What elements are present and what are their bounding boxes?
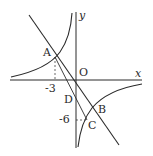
x-axis-label: x [135, 67, 142, 80]
y-tick-label: -6 [59, 113, 70, 126]
point-D-label: D [64, 93, 73, 106]
point-C-label: C [88, 119, 96, 132]
x-tick-label: -3 [45, 82, 56, 95]
hyperbola-upper-left-branch [11, 13, 72, 77]
point-A-label: A [42, 46, 52, 59]
point-B-label: B [98, 103, 106, 116]
hyperbola-lower-right-branch [78, 84, 142, 147]
y-axis-label: y [78, 9, 86, 22]
coordinate-diagram: y x O A -3 D B -6 C [0, 0, 153, 156]
origin-label: O [79, 66, 88, 79]
